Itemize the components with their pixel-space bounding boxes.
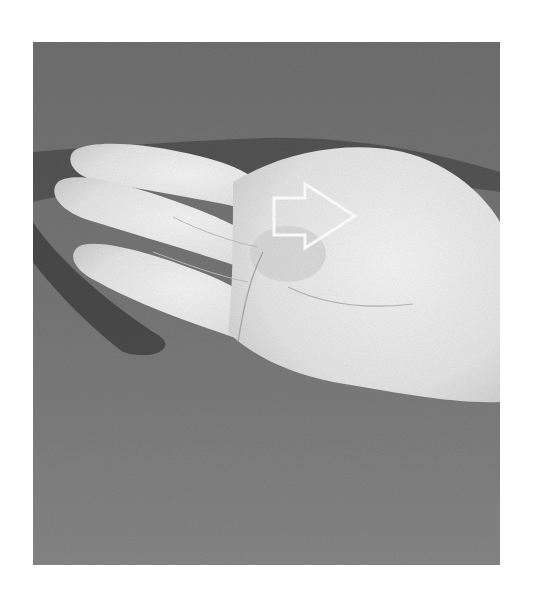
photo-content [33, 42, 500, 565]
hand-photo [33, 42, 500, 565]
